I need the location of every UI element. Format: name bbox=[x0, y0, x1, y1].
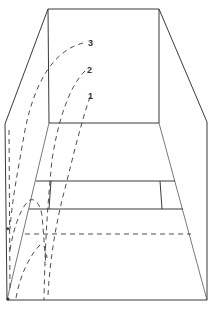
trajectory-3 bbox=[10, 43, 83, 229]
room-perspective-diagram: * 3 2 1 bbox=[0, 0, 212, 310]
left-wall-edges bbox=[5, 9, 49, 300]
bounce-arc-lower bbox=[16, 245, 47, 298]
drop-line-left bbox=[9, 130, 10, 290]
bench bbox=[29, 181, 183, 209]
label-curve-1: 1 bbox=[88, 91, 93, 101]
start-marker: * bbox=[6, 225, 10, 235]
origin-point bbox=[7, 298, 10, 301]
label-curve-3: 3 bbox=[88, 38, 93, 48]
label-curve-2: 2 bbox=[87, 65, 92, 75]
trajectory-1 bbox=[48, 97, 90, 295]
right-wall-edges bbox=[159, 9, 207, 300]
